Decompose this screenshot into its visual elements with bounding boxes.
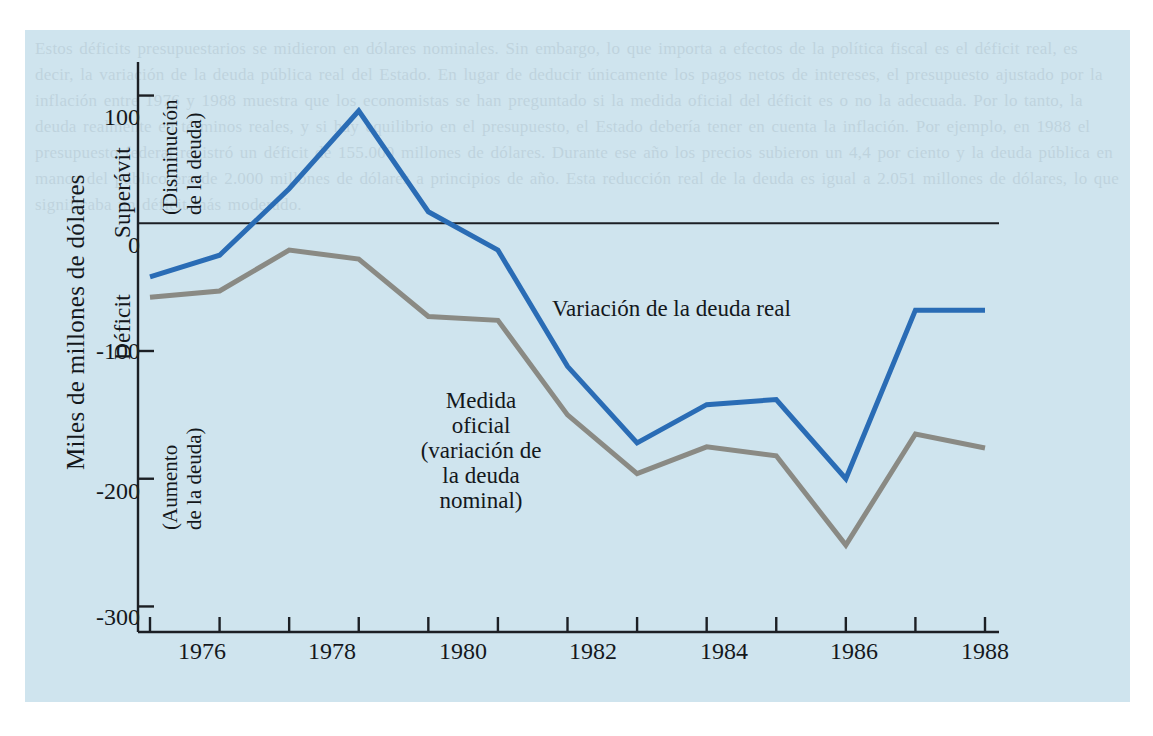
series-line-real-debt-change: [150, 111, 985, 479]
data-series-group: [150, 111, 985, 545]
axis-ticks: [138, 96, 985, 632]
figure-container: Estos déficits presupuestarios se midier…: [0, 0, 1153, 736]
series-line-official-nominal-debt-change: [150, 250, 985, 545]
chart-plot-area: [0, 0, 1153, 736]
axis-lines: [138, 62, 999, 632]
